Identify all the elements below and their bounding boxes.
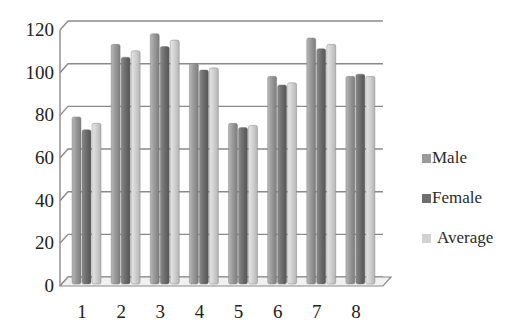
legend-label-female: Female — [432, 188, 482, 208]
bar-male — [72, 117, 81, 284]
bar-average — [170, 40, 179, 284]
x-tick-label: 6 — [273, 301, 283, 322]
bar-average — [92, 123, 101, 284]
bar-male — [307, 38, 316, 284]
y-tick-label: 100 — [26, 62, 55, 83]
x-tick-label: 2 — [116, 301, 126, 322]
bar-male — [189, 64, 198, 284]
x-axis-ticks: 12345678 — [77, 301, 360, 322]
x-tick-label: 5 — [234, 301, 244, 322]
x-tick-label: 1 — [77, 301, 87, 322]
y-tick-label: 20 — [35, 232, 54, 253]
bar-average — [131, 51, 140, 284]
bar-average — [249, 125, 258, 284]
bar-female — [239, 128, 248, 284]
y-tick-label: 40 — [35, 190, 54, 211]
bar-male — [229, 123, 238, 284]
y-tick-label: 80 — [35, 104, 54, 125]
y-tick-label: 120 — [26, 19, 55, 40]
bar-male — [346, 76, 355, 284]
x-tick-label: 4 — [195, 301, 205, 322]
bar-average — [327, 44, 336, 284]
legend-swatch-male — [422, 154, 431, 163]
x-tick-label: 8 — [351, 301, 361, 322]
bar-female — [121, 57, 130, 284]
x-tick-label: 7 — [312, 301, 322, 322]
bar-female — [278, 85, 287, 284]
bar-male — [150, 34, 159, 284]
y-axis-ticks: 020406080100120 — [26, 19, 55, 296]
y-tick-label: 0 — [45, 275, 55, 296]
legend-swatch-female — [422, 194, 431, 203]
bar-average — [288, 83, 297, 284]
chart-floor — [60, 277, 391, 286]
legend-item-male: Male — [422, 148, 493, 168]
bar-male — [111, 44, 120, 284]
bar-female — [317, 49, 326, 284]
legend-label-male: Male — [432, 148, 467, 168]
bar-average — [209, 68, 218, 284]
bar-female — [356, 74, 365, 284]
legend-item-average: Average — [422, 228, 493, 248]
legend-swatch-average — [422, 234, 431, 243]
y-tick-label: 60 — [35, 147, 54, 168]
x-tick-label: 3 — [156, 301, 166, 322]
legend-label-average: Average — [437, 228, 493, 248]
bar-male — [268, 76, 277, 284]
gridline — [60, 21, 383, 30]
legend: Male Female Average — [422, 148, 493, 268]
legend-item-female: Female — [422, 188, 493, 208]
bar-average — [366, 76, 375, 284]
bar-female — [160, 47, 169, 284]
bar-female — [82, 130, 91, 284]
bars — [72, 34, 375, 284]
bar-female — [199, 70, 208, 284]
